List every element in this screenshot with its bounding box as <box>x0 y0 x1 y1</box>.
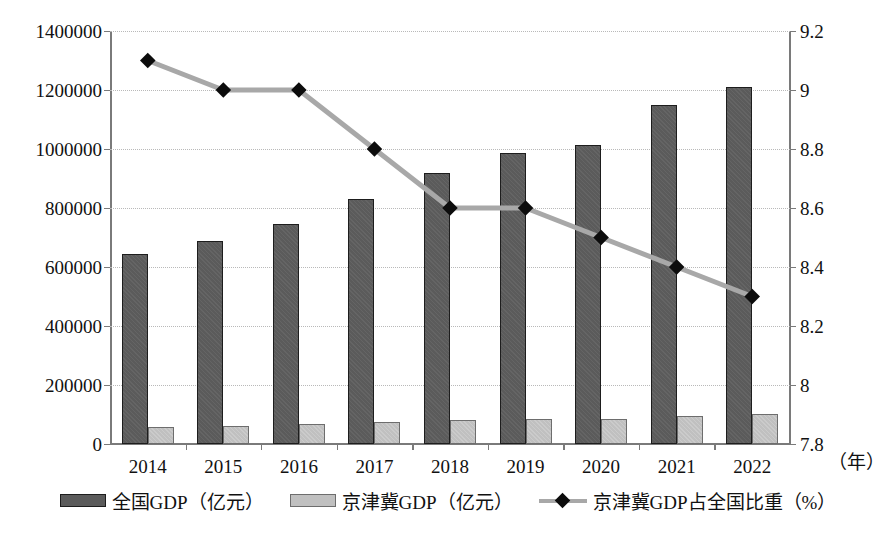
x-tick <box>714 444 715 450</box>
y-tick-label-left: 800000 <box>16 199 102 218</box>
line-marker-diamond <box>669 259 685 275</box>
y-tick-right <box>790 444 796 445</box>
line-marker-diamond <box>593 230 609 246</box>
x-axis-label: 2021 <box>639 456 715 478</box>
y-axis-right: 7.888.28.48.68.899.2 <box>800 31 880 444</box>
line-marker-diamond <box>518 200 534 216</box>
y-tick-label-right: 9 <box>800 81 870 100</box>
y-tick-right <box>790 31 796 32</box>
line-series <box>110 31 790 444</box>
x-tick <box>261 444 262 450</box>
x-tick <box>563 444 564 450</box>
legend-line-diamond-icon <box>539 494 587 508</box>
line-marker-diamond <box>216 82 232 98</box>
y-axis-left: 0200000400000600000800000100000012000001… <box>8 31 102 444</box>
y-tick-label-right: 8.4 <box>800 258 870 277</box>
x-tick <box>488 444 489 450</box>
x-tick <box>639 444 640 450</box>
legend-item[interactable]: 全国GDP（亿元） <box>60 487 264 514</box>
y-tick-right <box>790 385 796 386</box>
y-tick-right <box>790 149 796 150</box>
x-axis-label: 2016 <box>261 456 337 478</box>
legend-item[interactable]: 京津冀GDP（亿元） <box>290 487 513 514</box>
x-tick <box>186 444 187 450</box>
x-axis-unit: （年） <box>828 447 885 474</box>
x-axis-label: 2014 <box>110 456 186 478</box>
chart-container: 0200000400000600000800000100000012000001… <box>0 0 896 540</box>
plot-area: 201420152016201720182019202020212022 <box>110 31 790 444</box>
x-axis-label: 2022 <box>714 456 790 478</box>
y-tick-label-left: 0 <box>16 435 102 454</box>
y-tick-label-left: 1200000 <box>16 81 102 100</box>
legend-label: 京津冀GDP占全国比重（%） <box>593 487 837 514</box>
y-tick-label-left: 200000 <box>16 376 102 395</box>
legend-label: 全国GDP（亿元） <box>112 487 264 514</box>
x-axis-label: 2019 <box>488 456 564 478</box>
x-tick <box>337 444 338 450</box>
legend-label: 京津冀GDP（亿元） <box>342 487 513 514</box>
legend-bar-light-icon <box>290 494 336 507</box>
y-tick-label-left: 1000000 <box>16 140 102 159</box>
y-tick-left <box>104 444 110 445</box>
x-axis-label: 2017 <box>337 456 413 478</box>
y-tick-label-right: 9.2 <box>800 22 870 41</box>
y-tick-right <box>790 208 796 209</box>
y-tick-label-right: 8.6 <box>800 199 870 218</box>
x-tick <box>412 444 413 450</box>
x-axis-label: 2018 <box>412 456 488 478</box>
line-path <box>148 61 752 297</box>
chart-legend: 全国GDP（亿元）京津冀GDP（亿元）京津冀GDP占全国比重（%） <box>0 487 896 514</box>
line-marker-diamond <box>140 53 156 69</box>
y-tick-label-left: 400000 <box>16 317 102 336</box>
y-tick-right <box>790 267 796 268</box>
y-tick-right <box>790 326 796 327</box>
y-tick-label-left: 1400000 <box>16 22 102 41</box>
y-tick-label-right: 8 <box>800 376 870 395</box>
y-tick-label-right: 8.2 <box>800 317 870 336</box>
y-tick-right <box>790 90 796 91</box>
legend-item[interactable]: 京津冀GDP占全国比重（%） <box>539 487 837 514</box>
line-marker-diamond <box>744 289 760 305</box>
y-tick-label-left: 600000 <box>16 258 102 277</box>
legend-bar-dark-icon <box>60 494 106 507</box>
x-axis-label: 2020 <box>563 456 639 478</box>
y-tick-label-right: 8.8 <box>800 140 870 159</box>
x-axis-label: 2015 <box>186 456 262 478</box>
